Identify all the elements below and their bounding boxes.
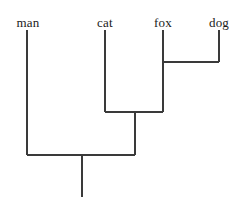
tree-branch-canvas: [0, 0, 242, 208]
leaf-label-fox: fox: [154, 16, 172, 29]
leaf-label-cat: cat: [97, 16, 113, 29]
leaf-label-man: man: [17, 16, 40, 29]
internal-node-branch-group: [27, 62, 219, 197]
leaf-label-dog: dog: [209, 16, 229, 29]
leaf-branch-group: [27, 30, 219, 155]
phylogenetic-tree-figure: mancatfoxdog: [0, 0, 242, 208]
